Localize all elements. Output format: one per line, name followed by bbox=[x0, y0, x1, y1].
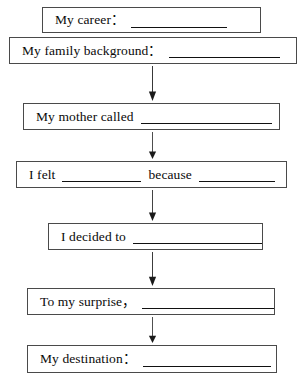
fill-in-blank-family-background[interactable] bbox=[169, 43, 280, 59]
fill-in-blank-surprise[interactable] bbox=[142, 294, 274, 310]
arrow-down-icon bbox=[147, 252, 158, 286]
flowchart-page: My career： My family background： My moth… bbox=[0, 0, 303, 380]
flow-box-my-destination: My destination： bbox=[27, 345, 277, 373]
flow-box-i-decided-to-label: I decided to bbox=[61, 230, 126, 244]
flow-box-family-background-label: My family background： bbox=[22, 44, 162, 58]
fill-in-blank-mother-called[interactable] bbox=[141, 109, 272, 125]
flow-box-career-label: My career： bbox=[55, 13, 124, 27]
fill-in-blank-reason[interactable] bbox=[199, 167, 275, 183]
flow-box-to-my-surprise-label: To my surprise， bbox=[40, 295, 135, 309]
arrow-down-icon bbox=[147, 317, 158, 343]
flow-box-to-my-surprise: To my surprise， bbox=[27, 288, 275, 315]
flow-box-i-decided-to: I decided to bbox=[48, 223, 263, 250]
fill-in-blank-destination[interactable] bbox=[143, 351, 271, 367]
arrow-down-icon bbox=[147, 66, 158, 101]
flow-box-i-felt-because: I felt because bbox=[16, 161, 287, 188]
arrow-down-icon bbox=[147, 132, 158, 159]
fill-in-blank-career[interactable] bbox=[131, 12, 227, 28]
flow-box-mother-called-label: My mother called bbox=[36, 110, 134, 124]
flow-box-family-background: My family background： bbox=[9, 37, 297, 64]
flow-box-career: My career： bbox=[42, 7, 261, 33]
flow-box-because-label: because bbox=[148, 168, 191, 182]
flow-box-my-destination-label: My destination： bbox=[40, 352, 136, 366]
flow-box-mother-called: My mother called bbox=[23, 103, 280, 130]
arrow-down-icon bbox=[147, 190, 158, 221]
fill-in-blank-feeling[interactable] bbox=[62, 167, 141, 183]
flow-box-i-felt-label: I felt bbox=[29, 168, 55, 182]
fill-in-blank-decision[interactable] bbox=[133, 229, 262, 245]
